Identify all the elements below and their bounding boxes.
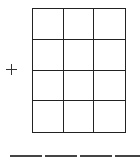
answer-blanks [10,155,140,157]
grid-cell [94,71,125,102]
square-grid [32,8,126,133]
grid-cell [33,101,64,132]
grid-cell [64,9,95,40]
grid-cell [64,40,95,71]
grid-cell [33,40,64,71]
grid-cell [33,71,64,102]
grid-cell [64,101,95,132]
answer-blank[interactable] [10,155,42,157]
grid-cell [94,40,125,71]
answer-blank[interactable] [80,155,112,157]
grid-cell [33,9,64,40]
answer-blank[interactable] [115,155,140,157]
grid-cell [64,71,95,102]
plus-icon [6,64,17,75]
grid-cell [94,9,125,40]
grid-cell [94,101,125,132]
answer-blank[interactable] [45,155,77,157]
